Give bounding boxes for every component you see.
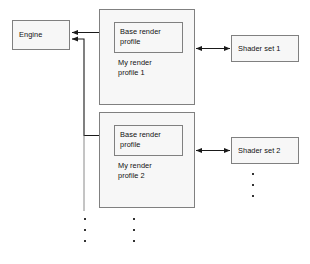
ellipsis-more-render-profiles [133, 218, 135, 251]
ellipsis-dot [133, 240, 135, 242]
ellipsis-dot [252, 173, 254, 175]
render-profile-1-label: My render profile 1 [118, 58, 152, 78]
shader-set-1-label: Shader set 1 [238, 44, 281, 54]
ellipsis-dot [252, 184, 254, 186]
base-render-profile-2-label: Base render profile [120, 130, 161, 150]
ellipsis-more-shader-sets [252, 173, 254, 206]
ellipsis-more-engine-connections [84, 218, 86, 251]
ellipsis-dot [133, 229, 135, 231]
ellipsis-dot [84, 229, 86, 231]
base-render-profile-1-label: Base render profile [120, 27, 161, 47]
shader-set-2-label: Shader set 2 [238, 146, 281, 156]
ellipsis-dot [252, 195, 254, 197]
ellipsis-dot [84, 240, 86, 242]
ellipsis-dot [84, 218, 86, 220]
ellipsis-dot [133, 218, 135, 220]
render-profile-2-label: My render profile 2 [118, 161, 152, 181]
engine-label: Engine [19, 30, 42, 40]
